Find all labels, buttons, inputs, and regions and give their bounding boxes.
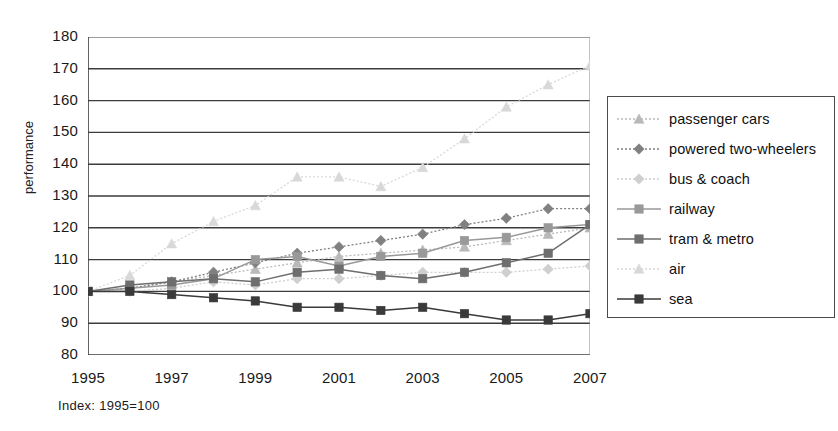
y-axis-tick-label: 160 bbox=[34, 91, 78, 108]
data-point-marker bbox=[250, 201, 260, 210]
data-point-marker bbox=[585, 204, 590, 214]
legend-item-label: air bbox=[669, 261, 685, 277]
data-point-marker bbox=[251, 297, 259, 305]
legend-item-label: tram & metro bbox=[669, 231, 754, 247]
data-point-marker bbox=[335, 303, 343, 311]
data-point-marker bbox=[501, 102, 511, 111]
data-point-marker bbox=[126, 287, 134, 295]
data-point-marker bbox=[377, 252, 385, 260]
data-point-marker bbox=[635, 205, 643, 213]
data-point-marker bbox=[251, 255, 259, 263]
data-point-marker bbox=[543, 80, 553, 89]
data-point-marker bbox=[292, 172, 302, 181]
data-point-marker bbox=[167, 278, 175, 286]
legend-key-swatch bbox=[615, 230, 663, 248]
legend-item-powered-two-wheelers[interactable]: powered two-wheelers bbox=[608, 134, 834, 164]
x-axis-tick-label: 2007 bbox=[560, 369, 620, 386]
data-point-marker bbox=[209, 216, 219, 225]
legend-key-swatch bbox=[615, 110, 663, 128]
data-point-marker bbox=[167, 239, 177, 248]
data-point-marker bbox=[376, 235, 386, 245]
data-point-marker bbox=[293, 252, 301, 260]
chart-page: performance 1801701601501401301201101009… bbox=[0, 0, 838, 431]
data-point-marker bbox=[543, 204, 553, 214]
data-point-marker bbox=[334, 273, 344, 283]
line-chart-svg bbox=[88, 37, 590, 355]
data-point-marker bbox=[418, 274, 426, 282]
data-point-marker bbox=[460, 268, 468, 276]
data-point-marker bbox=[418, 303, 426, 311]
legend-item-tram-metro[interactable]: tram & metro bbox=[608, 224, 834, 254]
legend-key-swatch bbox=[615, 170, 663, 188]
chart-legend: passenger carspowered two-wheelersbus & … bbox=[607, 96, 835, 318]
legend-key-swatch bbox=[615, 290, 663, 308]
x-axis-tick-label: 2001 bbox=[309, 369, 369, 386]
data-point-marker bbox=[377, 306, 385, 314]
data-point-marker bbox=[334, 242, 344, 252]
data-point-marker bbox=[501, 267, 511, 277]
x-axis-tick-label: 1999 bbox=[225, 369, 285, 386]
legend-item-label: sea bbox=[669, 291, 693, 307]
data-point-marker bbox=[544, 249, 552, 257]
y-axis-tick-label: 80 bbox=[34, 345, 78, 362]
legend-item-label: passenger cars bbox=[669, 111, 770, 127]
data-point-marker bbox=[502, 316, 510, 324]
data-point-marker bbox=[634, 144, 644, 154]
data-point-marker bbox=[460, 236, 468, 244]
data-point-marker bbox=[377, 271, 385, 279]
y-axis-tick-label: 150 bbox=[34, 122, 78, 139]
data-point-marker bbox=[502, 233, 510, 241]
index-footnote: Index: 1995=100 bbox=[58, 398, 160, 413]
legend-item-sea[interactable]: sea bbox=[608, 284, 834, 314]
data-point-marker bbox=[209, 274, 217, 282]
y-axis-tick-label: 140 bbox=[34, 154, 78, 171]
legend-item-air[interactable]: air bbox=[608, 254, 834, 284]
data-point-marker bbox=[293, 268, 301, 276]
data-point-marker bbox=[334, 172, 344, 181]
y-axis-tick-label: 110 bbox=[34, 250, 78, 267]
data-point-marker bbox=[209, 294, 217, 302]
legend-key-swatch bbox=[615, 200, 663, 218]
data-point-marker bbox=[586, 309, 590, 317]
y-axis-tick-label: 90 bbox=[34, 313, 78, 330]
y-axis-tick-label: 130 bbox=[34, 186, 78, 203]
data-point-marker bbox=[335, 265, 343, 273]
data-point-marker bbox=[635, 295, 643, 303]
data-point-marker bbox=[125, 271, 135, 280]
legend-item-passenger-cars[interactable]: passenger cars bbox=[608, 104, 834, 134]
legend-item-bus-coach[interactable]: bus & coach bbox=[608, 164, 834, 194]
data-point-marker bbox=[502, 259, 510, 267]
legend-key-swatch bbox=[615, 140, 663, 158]
data-point-marker bbox=[501, 213, 511, 223]
data-point-marker bbox=[585, 61, 590, 70]
data-point-marker bbox=[251, 278, 259, 286]
series-sea bbox=[88, 287, 590, 324]
data-point-marker bbox=[586, 220, 590, 228]
legend-key-swatch bbox=[615, 260, 663, 278]
legend-item-label: powered two-wheelers bbox=[669, 141, 816, 157]
y-axis-tick-label: 100 bbox=[34, 281, 78, 298]
plot-area bbox=[88, 37, 590, 355]
data-point-marker bbox=[460, 134, 470, 143]
data-point-marker bbox=[585, 261, 590, 271]
data-point-marker bbox=[460, 309, 468, 317]
data-point-marker bbox=[417, 229, 427, 239]
legend-item-label: bus & coach bbox=[669, 171, 750, 187]
data-point-marker bbox=[543, 264, 553, 274]
data-point-marker bbox=[167, 290, 175, 298]
legend-item-label: railway bbox=[669, 201, 715, 217]
y-axis-tick-label: 170 bbox=[34, 59, 78, 76]
data-point-marker bbox=[418, 249, 426, 257]
data-point-marker bbox=[88, 287, 92, 295]
data-point-marker bbox=[293, 303, 301, 311]
data-point-marker bbox=[544, 316, 552, 324]
legend-item-railway[interactable]: railway bbox=[608, 194, 834, 224]
y-axis-tick-label: 180 bbox=[34, 27, 78, 44]
y-axis-tick-label: 120 bbox=[34, 218, 78, 235]
data-point-marker bbox=[634, 174, 644, 184]
x-axis-tick-label: 2005 bbox=[476, 369, 536, 386]
data-point-marker bbox=[635, 235, 643, 243]
x-axis-tick-label: 1995 bbox=[58, 369, 118, 386]
data-point-marker bbox=[544, 224, 552, 232]
x-axis-tick-label: 1997 bbox=[142, 369, 202, 386]
